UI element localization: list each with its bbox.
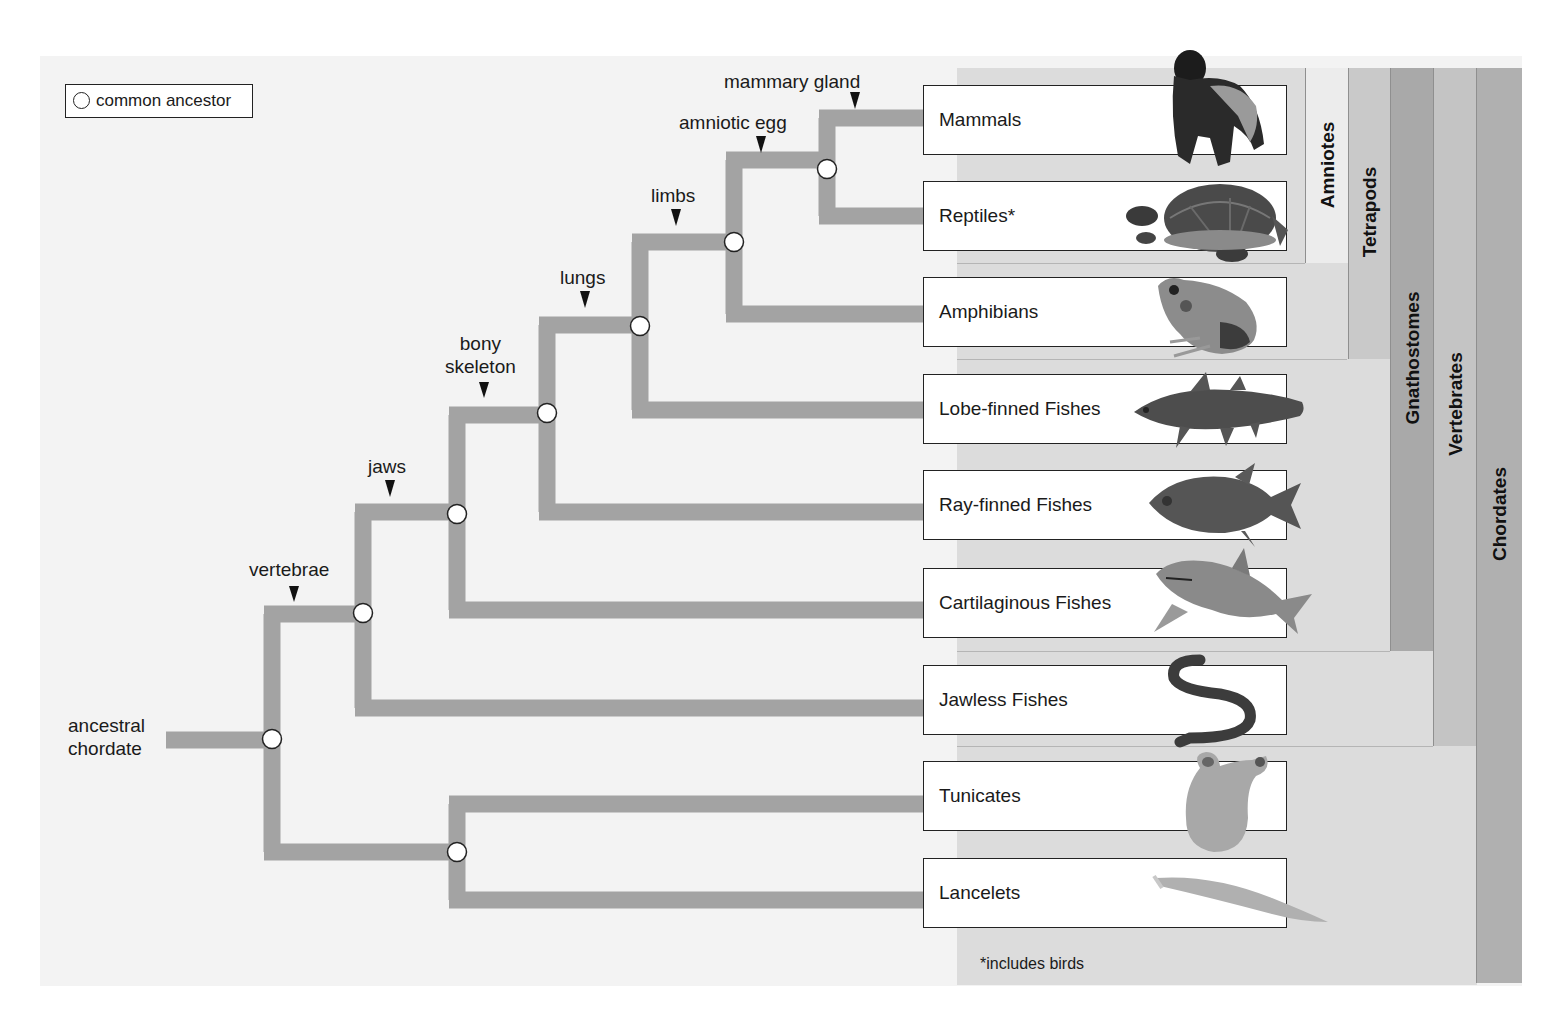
- gorilla-icon: [1160, 46, 1270, 170]
- lancelet-icon: [1152, 870, 1330, 928]
- lamprey-icon: [1160, 654, 1270, 749]
- fish-icon: [1145, 463, 1305, 548]
- trait-jaws: jaws: [368, 455, 406, 478]
- taxon-label: Reptiles*: [939, 205, 1015, 227]
- trait-bony-skeleton-line2: skeleton: [445, 355, 516, 378]
- turtle-icon: [1120, 176, 1295, 266]
- root-label-line2: chordate: [68, 737, 145, 760]
- shark-icon: [1152, 548, 1317, 638]
- tunicate-icon: [1180, 748, 1275, 856]
- trait-lungs: lungs: [560, 266, 605, 289]
- root-label-line1: ancestral: [68, 714, 145, 737]
- taxon-label: Cartilaginous Fishes: [939, 592, 1111, 614]
- trait-limbs: limbs: [651, 184, 695, 207]
- trait-bony-skeleton: bony skeleton: [445, 332, 516, 378]
- open-circle-icon: [73, 92, 90, 109]
- taxon-label: Jawless Fishes: [939, 689, 1068, 711]
- phylogenetic-tree: [0, 0, 1562, 1017]
- trait-mammary-gland: mammary gland: [724, 70, 860, 93]
- taxon-label: Mammals: [939, 109, 1021, 131]
- trait-bony-skeleton-line1: bony: [445, 332, 516, 355]
- frog-icon: [1150, 272, 1270, 358]
- legend-label: common ancestor: [96, 91, 231, 111]
- taxon-label: Lancelets: [939, 882, 1020, 904]
- trait-amniotic-egg: amniotic egg: [679, 111, 787, 134]
- taxon-label: Lobe-finned Fishes: [939, 398, 1101, 420]
- trait-vertebrae: vertebrae: [249, 558, 329, 581]
- root-label: ancestral chordate: [68, 714, 145, 760]
- footnote: *includes birds: [980, 955, 1084, 973]
- taxon-label: Tunicates: [939, 785, 1021, 807]
- taxon-label: Amphibians: [939, 301, 1038, 323]
- coelacanth-icon: [1130, 372, 1308, 450]
- taxon-label: Ray-finned Fishes: [939, 494, 1092, 516]
- legend: common ancestor: [65, 84, 253, 118]
